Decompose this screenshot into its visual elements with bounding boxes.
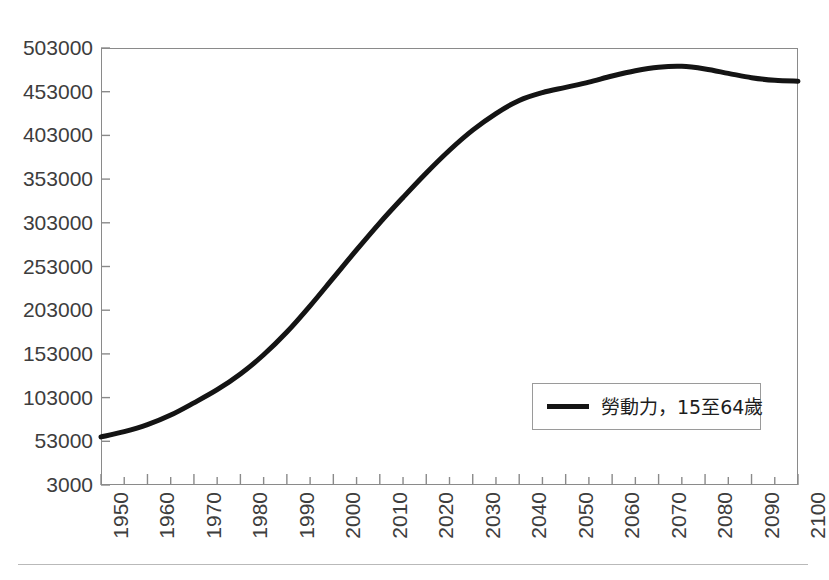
x-tick-label: 2010 — [389, 492, 410, 539]
x-tick-label: 2030 — [482, 492, 503, 539]
x-tick-label: 2060 — [621, 492, 642, 539]
x-tick-label: 2090 — [761, 492, 782, 539]
x-tick-label: 1980 — [249, 492, 270, 539]
x-tick-label: 2000 — [342, 492, 363, 539]
x-tick-label: 2070 — [668, 492, 689, 539]
x-tick-label: 2050 — [575, 492, 596, 539]
x-tick-label: 1990 — [296, 492, 317, 539]
x-tick-label: 2100 — [807, 492, 828, 539]
x-tick-label: 1950 — [110, 492, 131, 539]
legend-entry-label: 勞動力，15至64歲 — [601, 397, 763, 417]
x-tick-label: 2020 — [435, 492, 456, 539]
x-tick-label: 1970 — [203, 492, 224, 539]
legend-line-swatch-icon — [547, 404, 589, 409]
legend[interactable]: 勞動力，15至64歲 — [532, 383, 761, 430]
x-tick-label: 2080 — [714, 492, 735, 539]
x-tick-label: 1960 — [156, 492, 177, 539]
page-divider — [18, 564, 808, 565]
x-tick-label: 2040 — [528, 492, 549, 539]
